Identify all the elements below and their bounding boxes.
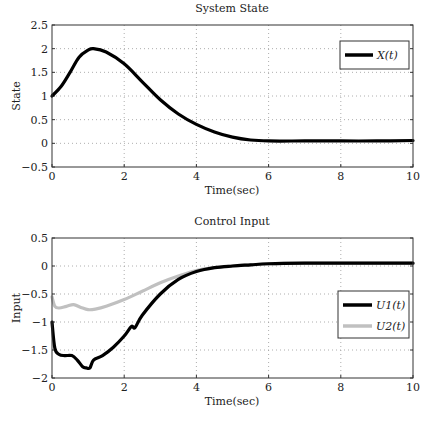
x-tick-label: 6 xyxy=(265,170,272,183)
x-tick-label: 8 xyxy=(337,381,344,394)
y-tick-label: 0.5 xyxy=(31,232,49,245)
x-tick-label: 10 xyxy=(406,381,420,394)
legend-label-x: X(t) xyxy=(376,49,398,62)
y-tick-label: −1 xyxy=(32,316,48,329)
y-tick-label: 0 xyxy=(41,260,48,273)
x-tick-label: 10 xyxy=(406,170,420,183)
x-tick-label: 2 xyxy=(121,170,128,183)
x-tick-label: 0 xyxy=(49,381,56,394)
legend-label-u1: U1(t) xyxy=(376,299,405,312)
y-tick-label: −2 xyxy=(32,372,48,385)
y-tick-label: −1.5 xyxy=(21,344,48,357)
y-tick-label: −0.5 xyxy=(21,161,48,174)
figure: System State Time(sec) State 0246810−0.5… xyxy=(0,0,429,421)
x-tick-label: 4 xyxy=(193,381,200,394)
y-axis-label: State xyxy=(10,81,23,110)
chart-title: Control Input xyxy=(194,215,270,228)
control-input-chart: Control Input Time(sec) Input 0246810−2−… xyxy=(10,215,420,408)
y-tick-label: 0 xyxy=(41,137,48,150)
x-tick-label: 6 xyxy=(265,381,272,394)
x-axis-label: Time(sec) xyxy=(205,395,260,408)
x-tick-label: 4 xyxy=(193,170,200,183)
x-tick-label: 2 xyxy=(121,381,128,394)
x-axis-label: Time(sec) xyxy=(205,184,260,197)
y-tick-label: 0.5 xyxy=(31,114,49,127)
x-tick-label: 0 xyxy=(49,170,56,183)
legend: X(t) xyxy=(340,41,409,69)
y-tick-label: 1.5 xyxy=(31,66,49,79)
y-tick-label: 2.5 xyxy=(31,19,49,32)
legend-label-u2: U2(t) xyxy=(376,320,405,333)
y-tick-label: −0.5 xyxy=(21,288,48,301)
chart-title: System State xyxy=(195,2,269,15)
y-tick-label: 1 xyxy=(41,90,48,103)
x-tick-label: 8 xyxy=(337,170,344,183)
system-state-chart: System State Time(sec) State 0246810−0.5… xyxy=(10,2,420,197)
legend: U1(t) U2(t) xyxy=(338,291,409,338)
y-tick-label: 2 xyxy=(41,43,48,56)
